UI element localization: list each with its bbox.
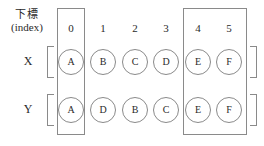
cell-x-0: A <box>58 49 84 75</box>
row-label-x: X <box>16 54 40 69</box>
cell-y-4: E <box>185 97 211 123</box>
array-bracket-right-x <box>250 46 257 78</box>
index-caption: 下標 (index) <box>0 8 54 34</box>
column-header-4: 4 <box>187 22 209 34</box>
row-label-y: Y <box>16 102 40 117</box>
array-bracket-right-y <box>250 94 257 126</box>
cell-y-0: A <box>58 97 84 123</box>
array-comparison-diagram: 下標 (index) 0 1 2 3 4 5 X A B C D E F Y A… <box>0 0 264 146</box>
cell-y-3: C <box>153 97 179 123</box>
array-bracket-left-x <box>47 46 54 78</box>
column-header-0: 0 <box>60 22 82 34</box>
cell-x-2: C <box>122 49 148 75</box>
cell-y-5: F <box>216 97 242 123</box>
column-header-1: 1 <box>92 22 114 34</box>
cell-y-1: D <box>90 97 116 123</box>
index-caption-cjk: 下標 <box>0 8 54 21</box>
array-bracket-left-y <box>47 94 54 126</box>
cell-x-5: F <box>216 49 242 75</box>
column-header-5: 5 <box>218 22 240 34</box>
cell-x-1: B <box>90 49 116 75</box>
cell-x-4: E <box>185 49 211 75</box>
cell-y-2: B <box>122 97 148 123</box>
cell-x-3: D <box>153 49 179 75</box>
index-caption-latin: (index) <box>0 21 54 34</box>
column-header-2: 2 <box>124 22 146 34</box>
column-header-3: 3 <box>155 22 177 34</box>
